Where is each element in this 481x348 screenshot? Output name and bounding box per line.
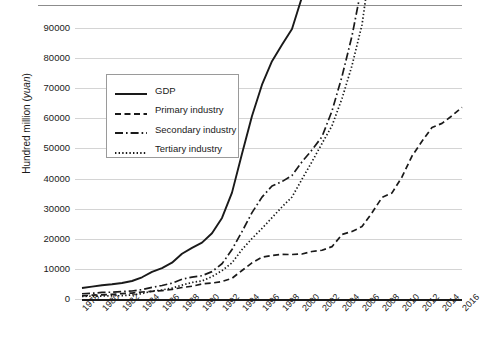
- legend-line-sample: [114, 105, 148, 115]
- legend-label: Secondary industry: [155, 124, 236, 135]
- y-axis-tick-mark: [75, 88, 82, 89]
- y-axis-tick-mark: [75, 58, 82, 59]
- y-axis-tick-mark: [75, 118, 82, 119]
- y-axis-tick-mark: [75, 28, 82, 29]
- data-series-layer: [82, 28, 462, 299]
- y-axis-tick-mark: [75, 179, 82, 180]
- legend-item-gdp[interactable]: GDP: [114, 80, 176, 100]
- y-axis-tick-label: 10000: [10, 264, 70, 274]
- y-axis-tick-mark: [75, 239, 82, 240]
- legend-item-secondary-industry[interactable]: Secondary industry: [114, 119, 236, 139]
- y-axis-tick-label: 80000: [10, 53, 70, 63]
- figure-top-rule: [38, 5, 462, 6]
- legend-label: GDP: [155, 85, 176, 96]
- y-axis-tick-mark: [75, 148, 82, 149]
- legend-line-sample: [114, 144, 148, 154]
- legend-item-tertiary-industry[interactable]: Tertiary industry: [114, 139, 222, 159]
- y-axis-title-tail: ): [21, 73, 32, 76]
- y-axis-tick-label: 70000: [10, 83, 70, 93]
- legend-label: Tertiary industry: [155, 143, 222, 154]
- y-axis-title-plain: Hundred million (: [21, 98, 32, 174]
- chart-legend: GDPPrimary industrySecondary industryTer…: [106, 74, 239, 158]
- x-axis-tick-label: 2016: [460, 292, 481, 313]
- y-axis-tick-label: 40000: [10, 174, 70, 184]
- legend-item-primary-industry[interactable]: Primary industry: [114, 100, 224, 120]
- y-axis-tick-label: 30000: [10, 204, 70, 214]
- y-axis-tick-label: 20000: [10, 234, 70, 244]
- y-axis-tick-label: 90000: [10, 23, 70, 33]
- legend-line-sample: [114, 124, 148, 134]
- legend-line-sample: [114, 85, 148, 95]
- y-axis-tick-label: 60000: [10, 113, 70, 123]
- y-axis-tick-label: 0: [10, 294, 70, 304]
- y-axis-tick-label: 50000: [10, 143, 70, 153]
- y-axis-tick-mark: [75, 299, 82, 300]
- y-axis-tick-mark: [75, 209, 82, 210]
- legend-label: Primary industry: [155, 104, 224, 115]
- plot-area: 0100002000030000400005000060000700008000…: [82, 28, 462, 299]
- y-axis-tick-mark: [75, 269, 82, 270]
